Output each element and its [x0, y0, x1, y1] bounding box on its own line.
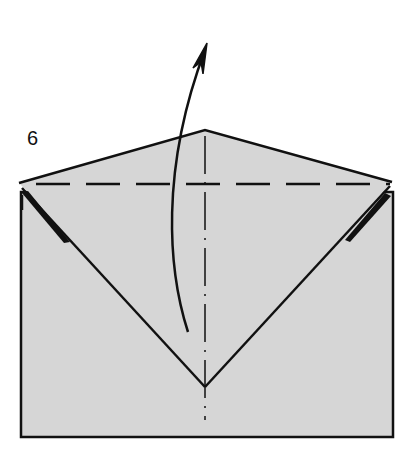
arrow-head-icon — [193, 43, 207, 74]
origami-diagram — [0, 0, 406, 459]
